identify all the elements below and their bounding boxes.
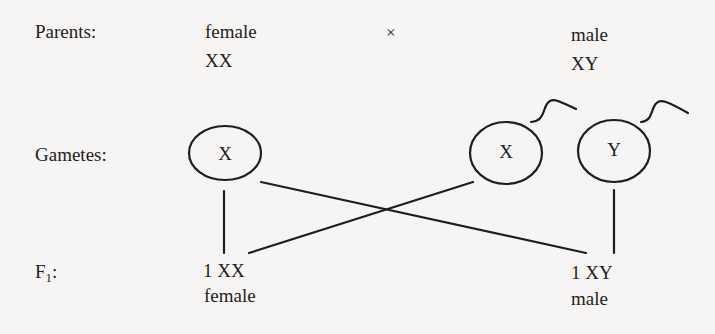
sperm-y-tail-icon <box>641 101 688 122</box>
line-egg-to-male <box>261 182 586 253</box>
offspring-male-genotype: 1 XY <box>571 262 613 284</box>
offspring-female-genotype: 1 XX <box>203 260 245 282</box>
parent-female-genotype: XX <box>205 50 232 72</box>
parent-male-sex: male <box>571 24 608 46</box>
f1-label-main: F <box>35 261 46 282</box>
parents-label: Parents: <box>35 21 96 43</box>
cross-symbol: × <box>386 22 396 44</box>
sperm-y-label: Y <box>594 139 634 161</box>
offspring-male-sex: male <box>571 288 608 310</box>
egg-x-label: X <box>205 143 245 165</box>
parent-male-genotype: XY <box>571 53 598 75</box>
line-sperm-x-to-female <box>249 182 473 253</box>
sex-determination-diagram: Parents: Gametes: F1: female XX × male X… <box>0 0 715 334</box>
offspring-female-sex: female <box>204 285 256 307</box>
f1-label: F1: <box>35 261 57 283</box>
sperm-x-label: X <box>486 141 526 163</box>
gametes-label: Gametes: <box>35 144 107 166</box>
f1-label-colon: : <box>52 261 57 282</box>
parent-female-sex: female <box>205 21 257 43</box>
sperm-x-tail-icon <box>531 100 576 122</box>
